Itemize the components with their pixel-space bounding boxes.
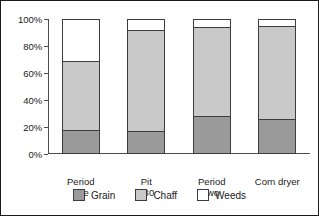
legend-item-chaff[interactable]: Chaff	[135, 189, 177, 201]
legend-swatch-grain	[73, 189, 85, 201]
bar-group[interactable]	[258, 19, 296, 154]
x-category-label: Corn dryer	[231, 176, 319, 187]
bar-stack	[193, 19, 231, 154]
legend-label: Weeds	[215, 190, 246, 201]
legend-item-weeds[interactable]: Weeds	[197, 189, 246, 201]
bar-group[interactable]	[62, 19, 100, 154]
bar-segment-chaff[interactable]	[258, 26, 296, 119]
bar-segment-grain[interactable]	[62, 130, 100, 154]
bar-segment-chaff[interactable]	[127, 30, 165, 131]
y-tick-label: 100%	[18, 14, 42, 25]
bar-segment-weeds[interactable]	[127, 19, 165, 30]
y-tick-label: 20%	[23, 122, 42, 133]
chart-figure: 100%80%60%40%20%0% Period onePit 180Peri…	[0, 0, 319, 216]
y-tick-mark	[44, 154, 48, 155]
bar-segment-chaff[interactable]	[193, 27, 231, 116]
bar-group[interactable]	[127, 19, 165, 154]
bar-series-container	[48, 19, 310, 154]
bar-segment-grain[interactable]	[127, 131, 165, 154]
bar-group[interactable]	[193, 19, 231, 154]
legend-swatch-weeds	[197, 189, 209, 201]
bar-segment-grain[interactable]	[258, 119, 296, 154]
legend-label: Chaff	[153, 190, 177, 201]
bar-segment-chaff[interactable]	[62, 61, 100, 130]
legend-label: Grain	[91, 190, 115, 201]
bar-segment-grain[interactable]	[193, 116, 231, 154]
legend-item-grain[interactable]: Grain	[73, 189, 115, 201]
bar-segment-weeds[interactable]	[62, 19, 100, 61]
bar-stack	[258, 19, 296, 154]
chart-legend: GrainChaffWeeds	[1, 189, 318, 201]
plot-area: 100%80%60%40%20%0% Period onePit 180Peri…	[48, 19, 310, 154]
legend-swatch-chaff	[135, 189, 147, 201]
bar-segment-weeds[interactable]	[193, 19, 231, 27]
bar-stack	[62, 19, 100, 154]
bar-segment-weeds[interactable]	[258, 19, 296, 26]
y-tick-label: 60%	[23, 68, 42, 79]
y-tick-label: 80%	[23, 41, 42, 52]
bar-stack	[127, 19, 165, 154]
y-tick-label: 0%	[28, 149, 42, 160]
y-tick-label: 40%	[23, 95, 42, 106]
